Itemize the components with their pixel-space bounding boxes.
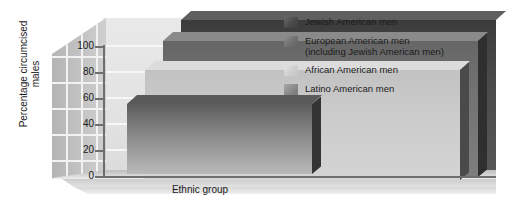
y-axis-title: Percentage circumcised males (18, 16, 42, 132)
bar-front-face (127, 104, 312, 174)
legend-label-block: European American men (including Jewish … (305, 35, 444, 57)
y-tick-100 (95, 46, 103, 48)
legend-label-latino-american-men: Latino American men (305, 83, 394, 94)
legend-swatch-jewish-american-men (284, 17, 298, 28)
y-axis-line (103, 45, 105, 178)
bar-latino-american-men (127, 104, 312, 174)
y-tick-label-0: 0 (68, 171, 94, 181)
legend-label-european-american-men-line2: (including Jewish American men) (305, 46, 444, 57)
chart-figure: 100 80 60 40 20 0 Percentage circumcised… (0, 0, 508, 207)
y-tick-label-40: 40 (68, 119, 94, 129)
y-axis-tick-labels: 100 80 60 40 20 0 (60, 0, 94, 207)
legend-label-jewish-american-men: Jewish American men (305, 16, 397, 27)
legend-label-european-american-men: European American men (305, 35, 444, 46)
y-tick-60 (95, 98, 103, 100)
legend-swatch-african-american-men (284, 65, 298, 76)
y-tick-label-20: 20 (68, 145, 94, 155)
legend-label-block: Jewish American men (305, 16, 397, 27)
y-tick-label-80: 80 (68, 67, 94, 77)
legend-item-african-american-men: African American men (284, 64, 502, 76)
legend-label-block: African American men (305, 64, 398, 75)
legend-item-european-american-men: European American men (including Jewish … (284, 35, 502, 57)
legend-label-block: Latino American men (305, 83, 394, 94)
legend-label-african-american-men: African American men (305, 64, 398, 75)
chart-legend: Jewish American men European American me… (284, 16, 502, 102)
x-axis-line (103, 176, 496, 178)
y-tick-20 (95, 150, 103, 152)
legend-swatch-european-american-men (284, 36, 298, 47)
legend-item-latino-american-men: Latino American men (284, 83, 502, 95)
legend-swatch-latino-american-men (284, 84, 298, 95)
y-tick-80 (95, 72, 103, 74)
y-tick-0 (95, 176, 103, 178)
x-axis-title: Ethnic group (120, 184, 280, 195)
bar-side-face (312, 96, 321, 174)
legend-item-jewish-american-men: Jewish American men (284, 16, 502, 28)
y-tick-label-60: 60 (68, 93, 94, 103)
y-tick-40 (95, 124, 103, 126)
y-tick-label-100: 100 (68, 41, 94, 51)
